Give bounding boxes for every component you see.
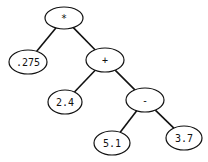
tree-node-operand: .275 [9, 50, 47, 74]
node-label: * [61, 13, 67, 24]
node-label: - [142, 95, 148, 106]
nodes-group: *.275+2.4-5.13.7 [9, 7, 202, 155]
node-label: 3.7 [175, 133, 193, 144]
tree-node-operand: 5.1 [94, 131, 130, 155]
edges-group [37, 28, 174, 133]
expression-tree-diagram: *.275+2.4-5.13.7 [0, 0, 208, 162]
node-label: + [102, 55, 108, 66]
tree-node-operand: 2.4 [48, 90, 82, 114]
edge-n0-n1 [37, 28, 56, 51]
edge-n2-n3 [74, 70, 95, 92]
edge-n4-n5 [120, 111, 137, 133]
tree-node-operator: + [86, 48, 124, 72]
tree-node-operator: * [45, 7, 83, 29]
node-label: .275 [16, 57, 40, 68]
tree-node-operand: 3.7 [166, 126, 202, 150]
tree-node-operator: - [126, 88, 164, 112]
node-label: 2.4 [56, 97, 74, 108]
edge-n2-n4 [115, 70, 135, 90]
edge-n0-n2 [73, 28, 95, 50]
node-label: 5.1 [103, 138, 121, 149]
edge-n4-n6 [155, 110, 174, 128]
